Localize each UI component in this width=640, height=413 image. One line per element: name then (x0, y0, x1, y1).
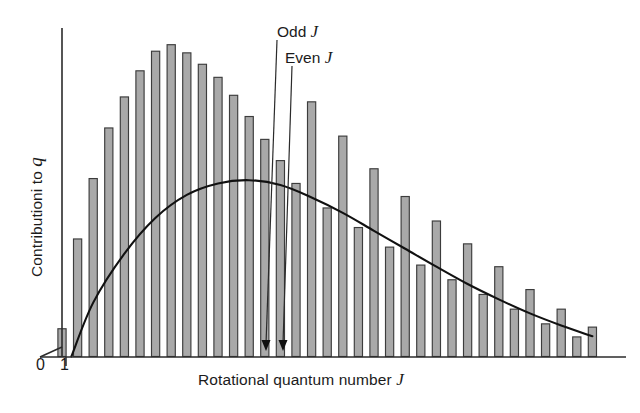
annotation-even-symbol: J (325, 48, 333, 67)
bar (230, 95, 238, 356)
bar (401, 197, 409, 357)
bar (495, 267, 503, 357)
bar (105, 128, 113, 357)
bar (308, 102, 316, 357)
bar (588, 327, 596, 356)
bar (354, 228, 362, 357)
bar (542, 324, 550, 357)
annotation-odd-symbol: J (311, 22, 319, 41)
bar (448, 280, 456, 357)
bar (526, 290, 534, 357)
x-axis-label-text: Rotational quantum number (198, 371, 396, 388)
bar (152, 51, 160, 356)
bar (120, 97, 128, 357)
rotational-contribution-figure: Rotational quantum number J Contribution… (0, 0, 640, 413)
annotation-odd-text: Odd (277, 23, 311, 40)
x-tick-label-0: 0 (36, 356, 45, 374)
bar (183, 53, 191, 357)
bar-series (58, 45, 597, 357)
bar (557, 309, 565, 356)
bar (261, 139, 269, 356)
bar (510, 309, 518, 356)
annotation-even-j: Even J (285, 48, 332, 68)
annotation-odd-j: Odd J (277, 22, 318, 42)
x-tick-label-1: 1 (60, 356, 69, 374)
bar (245, 117, 253, 357)
bar (417, 265, 425, 356)
annotation-even-text: Even (285, 49, 325, 66)
y-axis-label: Contributioni to q (25, 117, 47, 317)
bar (370, 169, 378, 357)
bar (198, 64, 206, 356)
x-axis-label: Rotational quantum number J (198, 370, 404, 390)
bar (464, 244, 472, 357)
bar (136, 71, 144, 357)
bar (573, 337, 581, 357)
x-axis-label-symbol: J (396, 370, 404, 389)
bar (214, 77, 222, 356)
y-axis-label-symbol: q (25, 157, 46, 167)
bar (89, 179, 97, 357)
bar (432, 221, 440, 357)
bar (167, 45, 175, 357)
bar (386, 247, 394, 356)
bar (479, 294, 487, 356)
y-axis-label-text: Contributioni to (28, 167, 45, 277)
bar (323, 208, 331, 357)
bar (339, 136, 347, 356)
bar (292, 183, 300, 356)
